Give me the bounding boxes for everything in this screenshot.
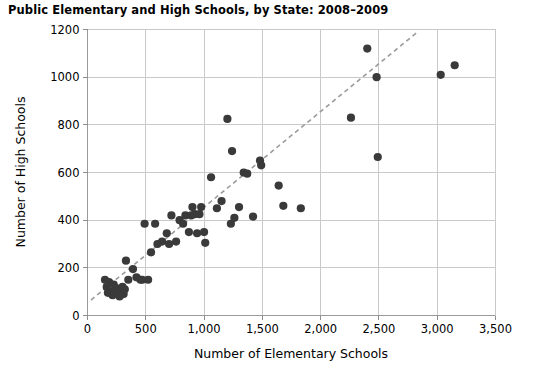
data-point xyxy=(279,202,287,210)
data-point xyxy=(372,73,380,81)
x-axis-title: Number of Elementary Schools xyxy=(194,346,388,361)
x-tick-label: 1,000 xyxy=(188,322,221,336)
data-point xyxy=(124,276,132,284)
data-point xyxy=(437,71,445,79)
data-point xyxy=(451,61,459,69)
data-point xyxy=(347,114,355,122)
data-point xyxy=(165,240,173,248)
data-point xyxy=(151,220,159,228)
y-tick-label: 0 xyxy=(72,309,79,323)
x-tick-label: 3,500 xyxy=(479,322,512,336)
y-tick-label: 800 xyxy=(58,118,80,132)
data-point xyxy=(141,220,149,228)
y-tick-label: 600 xyxy=(58,166,80,180)
data-point xyxy=(228,147,236,155)
data-point xyxy=(200,228,208,236)
data-point xyxy=(243,170,251,178)
data-point xyxy=(188,203,196,211)
data-point xyxy=(179,220,187,228)
data-point xyxy=(158,238,166,246)
data-point xyxy=(193,229,201,237)
data-point xyxy=(163,229,171,237)
data-point xyxy=(167,211,175,219)
data-point xyxy=(235,203,243,211)
tick-marks xyxy=(83,30,496,321)
x-tick-label: 2,500 xyxy=(362,322,395,336)
data-point xyxy=(207,173,215,181)
y-tick-label: 200 xyxy=(58,261,80,275)
data-point xyxy=(197,203,205,211)
gridlines xyxy=(88,30,496,316)
data-point xyxy=(217,197,225,205)
data-point xyxy=(249,212,257,220)
data-point xyxy=(195,210,203,218)
y-tick-label: 1000 xyxy=(50,70,79,84)
data-point xyxy=(374,153,382,161)
data-point xyxy=(223,115,231,123)
x-tick-label: 0 xyxy=(84,322,91,336)
regression-line xyxy=(91,33,416,300)
x-tick-label: 1,500 xyxy=(246,322,279,336)
chart-figure: Public Elementary and High Schools, by S… xyxy=(0,0,539,376)
data-point xyxy=(297,204,305,212)
scatter-plot: 05001,0001,5002,0002,5003,0003,500 02004… xyxy=(0,0,539,376)
data-point xyxy=(230,214,238,222)
x-tick-labels: 05001,0001,5002,0002,5003,0003,500 xyxy=(84,322,512,336)
data-point xyxy=(257,161,265,169)
data-point xyxy=(144,276,152,284)
y-axis-title: Number of High Schools xyxy=(13,97,28,248)
x-tick-label: 3,000 xyxy=(421,322,454,336)
y-tick-label: 400 xyxy=(58,213,80,227)
y-tick-labels: 020040060080010001200 xyxy=(50,23,79,323)
data-point xyxy=(185,228,193,236)
data-point xyxy=(121,285,129,293)
data-point xyxy=(147,248,155,256)
y-tick-label: 1200 xyxy=(50,23,79,37)
data-point xyxy=(201,239,209,247)
data-point xyxy=(172,238,180,246)
data-point xyxy=(363,44,371,52)
data-point xyxy=(213,204,221,212)
x-tick-label: 2,000 xyxy=(304,322,337,336)
data-point xyxy=(122,257,130,265)
data-point xyxy=(129,265,137,273)
x-tick-label: 500 xyxy=(135,322,157,336)
data-point xyxy=(275,182,283,190)
trend-line xyxy=(91,33,416,300)
